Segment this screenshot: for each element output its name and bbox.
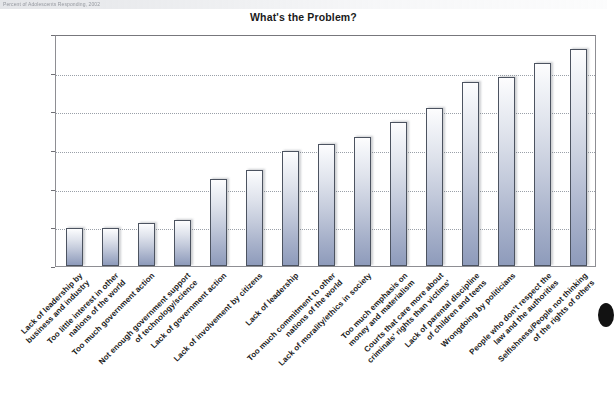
bar (66, 228, 83, 266)
y-tick-mark-60 (51, 35, 55, 36)
bar (318, 144, 335, 266)
bar (210, 179, 227, 266)
scan-header-band: Percent of Adolescents Responding, 2002 (0, 0, 607, 9)
bar (534, 63, 551, 266)
chart-title: What's the Problem? (0, 11, 607, 23)
scan-edge-artifact (598, 303, 614, 327)
y-tick-mark-30 (51, 151, 55, 152)
bar (138, 223, 155, 266)
bar (102, 228, 119, 266)
bar (426, 108, 443, 266)
y-tick-mark-50 (51, 74, 55, 75)
bar (174, 220, 191, 266)
x-axis-labels: Lack of leadership bybusiness and indust… (0, 267, 607, 399)
scan-header-text: Percent of Adolescents Responding, 2002 (0, 0, 607, 9)
bar (354, 137, 371, 266)
plot-area (55, 35, 596, 267)
bar (570, 49, 587, 266)
y-tick-mark-20 (51, 190, 55, 191)
gridline-50 (56, 75, 595, 76)
bar (498, 77, 515, 266)
bar (462, 82, 479, 266)
y-tick-mark-40 (51, 112, 55, 113)
bar (390, 122, 407, 266)
x-axis-label-line: nations of the world (252, 278, 345, 371)
bar (282, 151, 299, 266)
bar (246, 170, 263, 266)
y-tick-mark-10 (51, 228, 55, 229)
